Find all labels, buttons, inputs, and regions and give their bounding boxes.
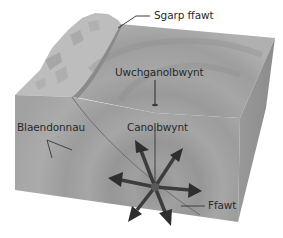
label-focus: Canolbwynt xyxy=(127,122,188,133)
label-epicentre: Uwchganolbwynt xyxy=(115,67,204,78)
focus-point xyxy=(151,183,159,191)
label-fault: Ffawt xyxy=(208,200,236,211)
label-fault-scarp: Sgarp ffawt xyxy=(154,10,214,21)
arrowhead-down-right xyxy=(159,209,172,226)
earthquake-block-diagram xyxy=(0,0,283,238)
label-wavefronts: Blaendonnau xyxy=(17,122,85,133)
